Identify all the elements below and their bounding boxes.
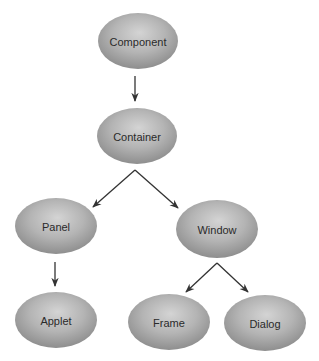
edge-container-panel — [93, 170, 135, 207]
edge-container-window — [135, 170, 178, 208]
node-panel: Panel — [15, 198, 97, 254]
node-window: Window — [176, 200, 258, 258]
node-component: Component — [98, 13, 178, 69]
node-label: Frame — [153, 317, 185, 329]
node-label: Applet — [40, 315, 71, 327]
edge-window-frame — [186, 263, 217, 292]
node-applet: Applet — [15, 292, 97, 348]
edge-window-dialog — [217, 263, 248, 292]
node-label: Panel — [42, 221, 70, 233]
node-frame: Frame — [128, 294, 210, 350]
node-label: Dialog — [249, 318, 280, 330]
node-dialog: Dialog — [224, 295, 306, 351]
edges — [55, 76, 248, 292]
node-label: Component — [110, 36, 167, 48]
node-label: Window — [197, 224, 236, 236]
node-container: Container — [97, 108, 177, 164]
node-label: Container — [113, 131, 161, 143]
hierarchy-diagram: Component Container Panel Window Applet … — [0, 0, 319, 361]
